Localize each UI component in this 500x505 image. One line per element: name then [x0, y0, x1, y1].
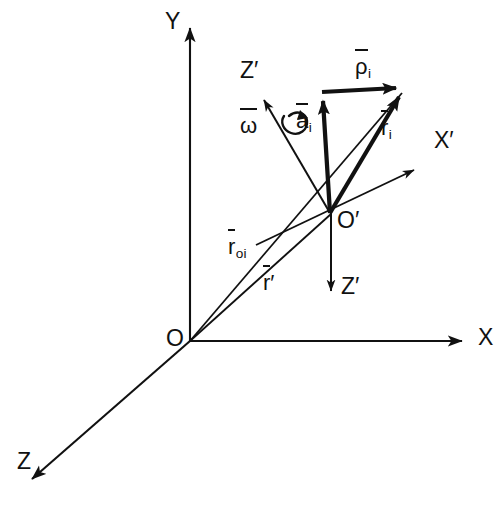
vector-label-r-oi-base: r	[228, 234, 235, 259]
overbar-r-oi	[228, 229, 235, 231]
vector-label-r-prime-base: r	[263, 270, 270, 295]
overbar-rho	[355, 49, 368, 51]
vector-label-r-i-base: r	[381, 115, 388, 140]
vector-label-r-prime: r′	[263, 272, 274, 294]
vector-label-r-i: ri	[381, 117, 391, 139]
vector-label-rho-base: ρ	[355, 54, 368, 79]
axis-label-y: Y	[165, 10, 180, 33]
axis-label-x-prime: X′	[434, 129, 454, 152]
vector-label-a-i: ai	[296, 110, 311, 132]
vector-r-prime	[190, 214, 331, 341]
vector-label-a-sub: i	[309, 120, 312, 135]
overbar-omega	[240, 108, 257, 110]
axis-label-z-prime-down: Z′	[341, 275, 359, 298]
vector-label-r-i-sub: i	[389, 127, 392, 142]
origin-label-o-prime: O′	[337, 209, 359, 232]
vector-label-a-base: a	[296, 108, 308, 133]
origin-label-o: O	[166, 327, 184, 350]
vector-label-r-oi-sub: oi	[236, 246, 247, 261]
overbar-a	[296, 103, 308, 105]
axis-label-x: X	[478, 326, 493, 349]
vector-label-rho-sub: i	[368, 66, 371, 81]
vector-label-omega: ω	[240, 115, 257, 137]
vector-label-r-prime-mark: ′	[270, 270, 274, 295]
vector-label-omega-base: ω	[240, 113, 257, 138]
overbar-r-i	[381, 110, 388, 112]
vector-label-r-oi: roi	[228, 236, 246, 258]
vector-a-i	[323, 101, 330, 213]
axis-label-z-prime-up: Z′	[240, 59, 258, 82]
vector-label-rho-i: ρi	[355, 56, 371, 78]
vector-r-i	[330, 97, 399, 213]
vector-rho-i	[322, 88, 396, 92]
axis-label-z: Z	[17, 450, 31, 473]
kinematics-diagram: Y X Z O O′ X′ Z′ Z′ ρi ai ri roi r′ ω	[0, 0, 500, 505]
global-axis-z	[32, 341, 190, 479]
overbar-r-prime	[263, 265, 270, 267]
